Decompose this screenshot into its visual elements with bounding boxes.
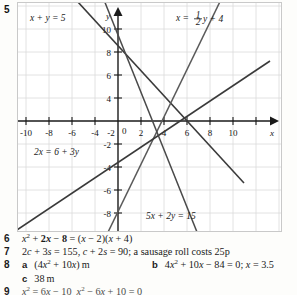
x-tick-label: -10 xyxy=(20,128,32,138)
answer-row-7: 7 2c + 3s = 155, c + 2s = 90; a sausage … xyxy=(0,245,297,258)
x-axis-arrow xyxy=(270,117,279,126)
plot-line-5x-plus-2y-15 xyxy=(100,3,207,232)
answer-body-part-b: b4x2 + 10x − 84 = 0; x = 3.5 xyxy=(152,258,274,271)
answer-body-part-c: c38 m xyxy=(22,272,54,285)
question-number-5: 5 xyxy=(4,4,10,15)
line-label-2x-6-plus-3y: 2x = 6 + 3y xyxy=(34,147,80,157)
answer-row-8c: c38 m xyxy=(0,272,297,285)
y-tick-label: 6 xyxy=(107,71,112,81)
answers-list: 6 x2 + 2x − 8 = (x − 2)(x + 4) 7 2c + 3s… xyxy=(0,232,297,295)
grid-lines xyxy=(18,3,282,232)
x-axis-label: x xyxy=(269,128,274,138)
y-tick-label: 4 xyxy=(107,94,112,104)
part-label-b: b xyxy=(152,259,158,270)
answer-number: 7 xyxy=(4,245,18,258)
origin-label: 0 xyxy=(122,126,127,136)
x-tick-label: -8 xyxy=(45,128,53,138)
answer-number: 6 xyxy=(4,232,18,245)
x-tick-label: -6 xyxy=(68,128,76,138)
line-label-5x-plus-2y-15: 5x + 2y = 15 xyxy=(146,211,196,221)
answer-row-6: 6 x2 + 2x − 8 = (x − 2)(x + 4) xyxy=(0,232,297,245)
plot-line-x-plus-y-5 xyxy=(61,3,245,183)
part-label-c: c xyxy=(22,273,27,284)
answer-row-8: 8 a(4x2 + 10x) m b4x2 + 10x − 84 = 0; x … xyxy=(0,258,297,271)
answer-row-9: 9 x2 = 6x − 10 x2 − 6x + 10 = 0 xyxy=(0,285,297,295)
x-tick-label: 2 xyxy=(139,128,144,138)
y-axis-arrow xyxy=(114,7,123,16)
line-label-x-plus-y-5: x + y = 5 xyxy=(29,13,66,23)
answer-number: 9 xyxy=(4,285,18,295)
fraction-denominator: 2 xyxy=(196,17,201,27)
x-tick-label: 8 xyxy=(208,128,213,138)
x-tick-label: -2 xyxy=(107,128,115,138)
x-tick-labels: -10 -8 -6 -4 -2 2 4 6 8 10 xyxy=(20,128,238,138)
line-label-x-half-y-plus-4: x = 1 2 y + 4 xyxy=(175,10,223,28)
axes xyxy=(18,9,270,231)
y-tick-label: -8 xyxy=(104,209,112,219)
answer-body: 2c + 3s = 155, c + 2s = 90; a sausage ro… xyxy=(22,245,230,258)
y-tick-label: -6 xyxy=(104,186,112,196)
answers-page: 5 xyxy=(0,0,297,295)
answer-body: x2 + 2x − 8 = (x − 2)(x + 4) xyxy=(22,232,132,245)
line-label-suffix: y + 4 xyxy=(202,14,223,24)
x-tick-label: 6 xyxy=(185,128,190,138)
part-label-a: a xyxy=(22,259,27,270)
y-tick-label: 8 xyxy=(107,48,112,58)
answer-body: x2 = 6x − 10 x2 − 6x + 10 = 0 xyxy=(22,285,142,295)
x-tick-label: 10 xyxy=(229,128,239,138)
part-b-text: 4x2 + 10x − 84 = 0; x = 3.5 xyxy=(165,259,274,270)
graph-figure: x y 0 -10 -8 -6 -4 -2 xyxy=(17,2,282,232)
line-label-prefix: x = xyxy=(175,13,189,23)
coordinate-graph-svg: x y 0 -10 -8 -6 -4 -2 xyxy=(18,3,282,232)
y-tick-label: -2 xyxy=(104,140,112,150)
x-tick-label: -4 xyxy=(91,128,99,138)
answer-number: 8 xyxy=(4,258,18,271)
answer-body-part-a: a(4x2 + 10x) m xyxy=(22,258,90,271)
part-c-text: 38 m xyxy=(34,273,54,284)
part-a-text: (4x2 + 10x) m xyxy=(34,259,89,270)
